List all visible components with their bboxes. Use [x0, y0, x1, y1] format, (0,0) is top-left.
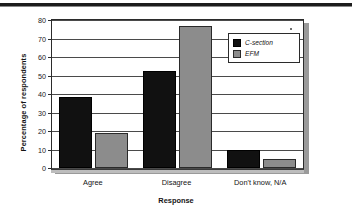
- x-axis-base: [51, 169, 304, 173]
- y-tick-label: 50: [38, 71, 46, 80]
- legend-label-c-section: C-section: [245, 39, 273, 46]
- x-axis-title: Response: [0, 196, 352, 205]
- y-tick-label: 60: [38, 53, 46, 62]
- bar-efm-disagree: [179, 26, 212, 168]
- top-rule-divider-secondary: [0, 6, 352, 7]
- x-axis-category-labels: AgreeDisagreeDon't know, N/A: [51, 178, 304, 192]
- y-axis-title: Percentage of respondents: [19, 28, 28, 178]
- chart-figure: Percentage of respondents 01020304050607…: [0, 0, 352, 214]
- y-tick-label: 20: [38, 127, 46, 136]
- y-tick-label: 10: [38, 145, 46, 154]
- stray-mark: [290, 28, 292, 30]
- bar-efm-agree: [95, 133, 128, 168]
- bar-c-section-don-t-know-n-a: [227, 150, 260, 168]
- legend-swatch-efm: [233, 50, 241, 58]
- chart-legend: C-section EFM: [228, 33, 300, 63]
- bar-efm-don-t-know-n-a: [263, 159, 296, 168]
- legend-swatch-c-section: [233, 39, 241, 47]
- x-tick-label: Don't know, N/A: [234, 178, 286, 187]
- legend-item-efm: EFM: [233, 48, 295, 59]
- y-tick-label: 80: [38, 16, 46, 25]
- bar-c-section-agree: [59, 97, 92, 168]
- y-tick-label: 40: [38, 90, 46, 99]
- y-tick-label: 70: [38, 34, 46, 43]
- legend-item-c-section: C-section: [233, 37, 295, 48]
- legend-label-efm: EFM: [245, 50, 259, 57]
- y-tick-label: 0: [42, 164, 46, 173]
- x-tick-label: Disagree: [162, 178, 192, 187]
- x-tick-label: Agree: [83, 178, 103, 187]
- plot-shadow-right: [304, 23, 309, 173]
- bar-c-section-disagree: [143, 71, 176, 168]
- y-tick-label: 30: [38, 108, 46, 117]
